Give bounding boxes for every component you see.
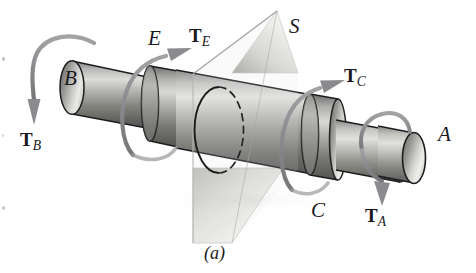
torque-label-tb: TB: [20, 130, 41, 153]
figure-caption: (a): [204, 243, 225, 264]
torque-label-ta: TA: [365, 206, 386, 229]
label-collar-e: E: [148, 28, 161, 49]
torque-subscript-ta: A: [378, 214, 387, 229]
shaft-segment-a: [378, 126, 426, 184]
torque-symbol-tb: T: [20, 129, 33, 150]
scan-speck: [2, 57, 5, 61]
torque-subscript-te: E: [202, 34, 211, 49]
contact-shadow: [130, 186, 370, 214]
torque-symbol-ta: T: [365, 205, 378, 226]
scan-speck: [2, 134, 4, 137]
torque-symbol-tc: T: [344, 65, 357, 86]
torque-subscript-tb: B: [33, 138, 42, 153]
shaft-torsion-figure: B E S C A TB TE TC TA (a): [0, 0, 476, 273]
collar-e: [142, 66, 179, 147]
torque-label-tc: TC: [344, 66, 366, 89]
figure-illustration: [0, 0, 476, 273]
label-section-a: A: [438, 124, 451, 145]
label-plane-s: S: [289, 16, 300, 37]
label-collar-c: C: [311, 200, 325, 221]
torque-symbol-te: T: [189, 25, 202, 46]
torque-label-te: TE: [189, 26, 210, 49]
torque-subscript-tc: C: [357, 74, 366, 89]
label-section-b: B: [64, 68, 77, 89]
scan-speck: [2, 206, 5, 210]
